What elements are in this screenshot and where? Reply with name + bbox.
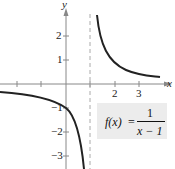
formula-label: f(x) = 1 x − 1 [97, 103, 167, 139]
y-tick-label-1: 1 [57, 54, 63, 65]
y-axis-label: y [62, 0, 67, 10]
x-tick-label-2: 2 [112, 88, 118, 99]
formula-numerator: 1 [147, 106, 153, 121]
y-tick-label-neg1: −1 [51, 102, 63, 113]
x-tick-label-3: 3 [136, 88, 142, 99]
right-branch-curve [97, 15, 160, 77]
formula-equals: = [128, 115, 135, 130]
fraction-bar [137, 121, 165, 122]
y-tick-label-neg3: −3 [51, 150, 63, 161]
graph-canvas [0, 0, 175, 169]
y-tick-label-2: 2 [56, 30, 62, 41]
y-tick-label-neg2: −2 [51, 126, 63, 137]
formula-lhs: f(x) [105, 115, 122, 130]
left-branch-curve [0, 92, 84, 169]
formula-denominator: x − 1 [137, 124, 162, 139]
x-axis-label: x [167, 78, 172, 89]
function-graph: y x 2 3 2 1 −1 −2 −3 f(x) = 1 x − 1 [0, 0, 175, 169]
